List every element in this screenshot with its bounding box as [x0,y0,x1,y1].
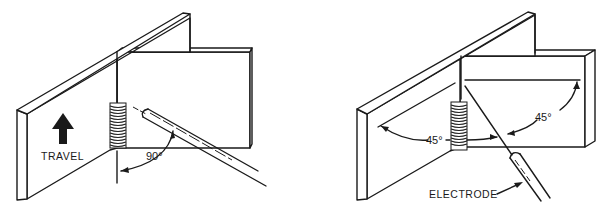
right-left-angle-label: 45° [426,134,443,146]
left-weld-bead [110,103,126,148]
welding-position-diagram: 90° TRAVEL [0,0,608,215]
travel-label: TRAVEL [41,150,84,162]
electrode-label: ELECTRODE [429,188,498,200]
left-figure: 90° TRAVEL [17,13,266,200]
right-figure: 45° 45° ELECTRODE [357,12,595,201]
right-electrode [510,153,550,201]
left-angle-label: 90° [146,150,163,162]
right-right-angle-label: 45° [535,111,552,123]
electrode-leader-arrow [497,182,523,194]
right-weld-bead [451,102,467,150]
right-back-plate [460,50,595,147]
